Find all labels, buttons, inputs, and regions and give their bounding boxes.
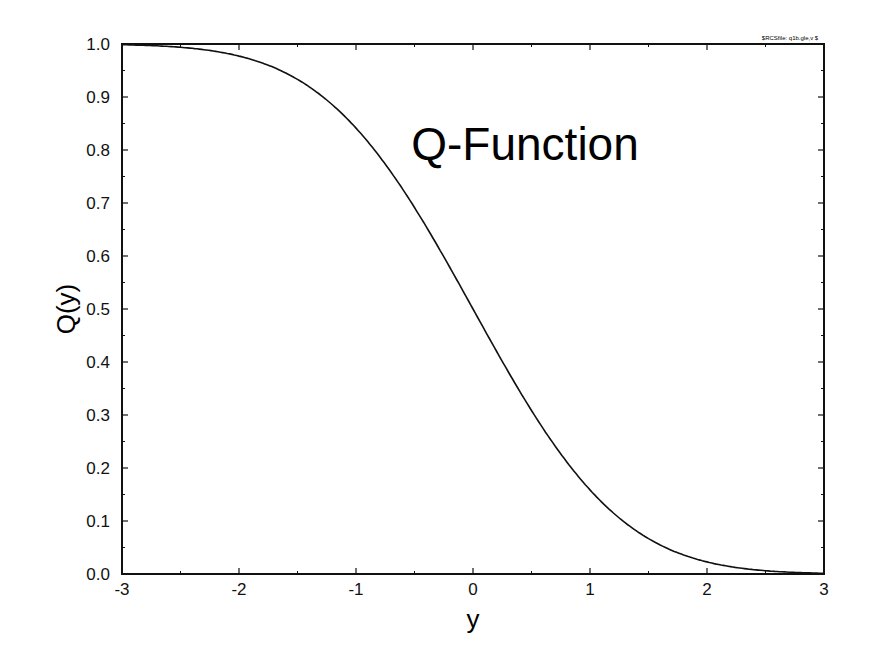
x-tick-label: 3: [819, 580, 828, 599]
x-tick-label: 2: [702, 580, 711, 599]
x-tick-label: -3: [114, 580, 129, 599]
x-tick-label: -2: [231, 580, 246, 599]
y-tick-label: 0.6: [86, 247, 110, 266]
y-tick-label: 0.2: [86, 459, 110, 478]
y-tick-label: 0.8: [86, 141, 110, 160]
y-tick-label: 1.0: [86, 35, 110, 54]
y-tick-label: 0.5: [86, 300, 110, 319]
corner-label: $RCSfile: q1b.gle,v $: [762, 35, 819, 41]
y-tick-label: 0.0: [86, 565, 110, 584]
y-axis-label: Q(y): [51, 284, 81, 335]
y-tick-label: 0.9: [86, 88, 110, 107]
x-axis-label: y: [467, 604, 480, 634]
x-tick-label: 0: [468, 580, 477, 599]
chart-title: Q-Function: [411, 118, 639, 170]
x-tick-label: -1: [348, 580, 363, 599]
x-tick-label: 1: [585, 580, 594, 599]
y-tick-label: 0.1: [86, 512, 110, 531]
y-tick-label: 0.3: [86, 406, 110, 425]
y-tick-label: 0.7: [86, 194, 110, 213]
chart: $RCSfile: q1b.gle,v $ Q-Function y Q(y) …: [0, 0, 872, 655]
y-tick-label: 0.4: [86, 353, 110, 372]
